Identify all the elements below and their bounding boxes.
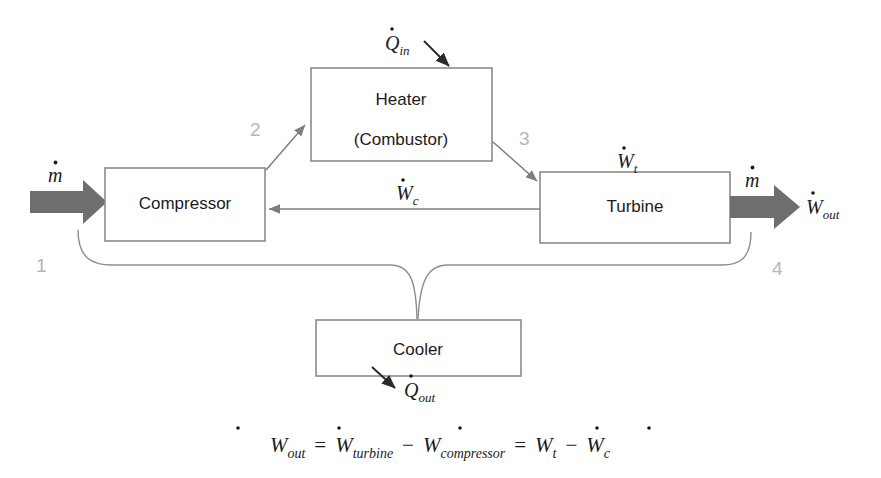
net-work-equation-text: Wout=Wturbine−Wcompressor=Wt−Wc (270, 433, 611, 461)
eq-equals-1: = (314, 433, 326, 457)
mdot-inlet-base: m (48, 164, 62, 186)
w-out-dot-accent (811, 191, 815, 195)
mdot-outlet-label: m (745, 169, 759, 191)
heater-to-turbine-arrow (493, 142, 537, 181)
net-work-equation: Wout=Wturbine−Wcompressor=Wt−Wc (236, 426, 651, 461)
mdot-outlet-dot-accent (751, 166, 755, 170)
q-in-arrow (424, 41, 449, 66)
state-number-2: 2 (250, 119, 261, 140)
eq-lhs-sub: out (287, 446, 306, 461)
w-c-sub: c (413, 193, 419, 208)
eq-dot-accent-5 (647, 426, 651, 430)
turbine-to-cooler-line (418, 232, 751, 319)
eq-dot-accent-2 (337, 426, 341, 430)
eq-minus-2: − (566, 433, 578, 457)
w-out-sub: out (823, 207, 840, 222)
w-t-sub: t (634, 161, 638, 176)
q-out-label: Qout (404, 379, 435, 405)
state-number-3: 3 (519, 128, 530, 149)
state-number-1: 1 (36, 255, 47, 276)
cycle-diagram-canvas: m Compressor Heater (Combustor) Turbine … (0, 0, 881, 478)
compressor-label: Compressor (139, 194, 232, 213)
q-out-dot-accent (409, 374, 413, 378)
q-in-label: Qin (385, 32, 410, 58)
cycle-diagram-svg: m Compressor Heater (Combustor) Turbine … (0, 0, 881, 478)
eq-dot-accent-3 (458, 426, 462, 430)
eq-t3-sub: t (553, 446, 558, 461)
state-number-4: 4 (772, 258, 783, 279)
q-out-base: Q (404, 379, 419, 401)
mass-flow-outlet-arrow (730, 185, 800, 229)
w-out-label: Wout (806, 196, 840, 222)
turbine-label: Turbine (606, 197, 663, 216)
heater-label: Heater (375, 90, 426, 109)
q-in-base: Q (385, 32, 400, 54)
eq-equals-2: = (514, 433, 526, 457)
eq-t4-sub: c (604, 446, 611, 461)
eq-dot-accent-4 (595, 426, 599, 430)
w-t-dot-accent (622, 146, 626, 150)
cooler-to-compressor-line (78, 230, 417, 319)
q-in-dot-accent (390, 27, 394, 31)
heater-sublabel: (Combustor) (354, 130, 448, 149)
mdot-inlet-dot-accent (54, 161, 58, 165)
w-c-dot-accent (401, 178, 405, 182)
q-in-sub: in (399, 43, 409, 58)
compressor-to-heater-arrow (266, 125, 305, 170)
mdot-inlet-label: m (48, 164, 62, 186)
cooler-label: Cooler (393, 340, 443, 359)
w-c-label: Wc (396, 182, 419, 208)
q-out-sub: out (418, 390, 435, 405)
eq-minus-1: − (402, 433, 414, 457)
eq-t2-sub: compressor (440, 446, 505, 461)
mdot-outlet-base: m (745, 169, 759, 191)
eq-t1-sub: turbine (353, 446, 393, 461)
mass-flow-inlet-arrow (30, 180, 107, 224)
eq-dot-accent-1 (236, 426, 240, 430)
